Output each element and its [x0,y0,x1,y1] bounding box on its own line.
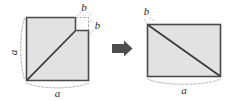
label-notch-top-b: b [81,1,87,13]
label-bottom-side-a: a [55,87,61,99]
notch-right-leader [91,20,94,24]
rightwards-arrow-icon [112,41,133,57]
label-left-side-a: a [7,49,19,55]
label-notch-right-b: b [95,19,101,31]
transform-arrow-group [112,41,133,57]
label-right-bottom-a: a [181,84,187,96]
notch-right-leader-lower [90,31,94,35]
label-corner-b: b [144,5,150,17]
left-figure-group: a a b b [7,1,101,99]
corner-b-leader-left [144,19,148,24]
geometric-dissection-figure: a a b b b [0,0,233,101]
figure-canvas: a a b b b [0,0,233,101]
notch-top-leader-right [87,12,91,16]
notch-dashed-outline [76,18,89,31]
corner-b-leader-right [150,18,156,23]
left-side-brace [21,19,25,80]
right-figure-group: b a [144,5,221,97]
